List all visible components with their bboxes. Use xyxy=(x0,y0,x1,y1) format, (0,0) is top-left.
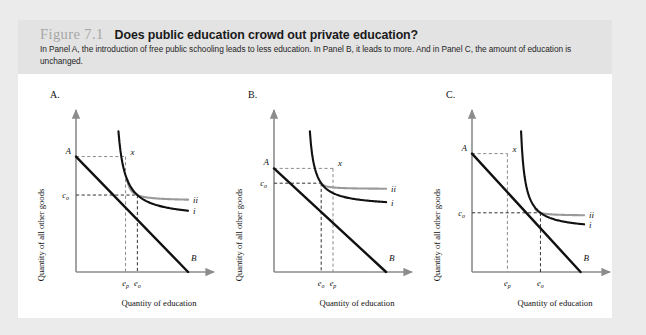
label-point-x: x xyxy=(130,147,135,157)
label-curve-i: i xyxy=(589,220,592,230)
ytick-c-o: co xyxy=(260,179,267,189)
xtick-e_p: ep xyxy=(122,279,129,289)
panels-container: A.AxBiiicoepeoQuantity of all other good… xyxy=(18,74,612,318)
y-axis-label: Quantity of all other goods xyxy=(36,188,46,281)
ytick-c-o: co xyxy=(458,209,465,219)
label-point-A: A xyxy=(461,143,468,153)
xtick-e_p: ep xyxy=(330,279,337,289)
label-curve-ii: ii xyxy=(391,184,397,194)
label-curve-i: i xyxy=(193,206,196,216)
panel-C-chart: C.AxBiiicoepeoQuantity of all other good… xyxy=(414,74,612,318)
y-axis-label: Quantity of all other goods xyxy=(432,188,442,281)
xtick-e_o: eo xyxy=(537,279,544,289)
budget-line-AB xyxy=(76,157,188,272)
panel-C-letter: C. xyxy=(446,89,455,100)
curve-i xyxy=(521,131,584,224)
curve-ii xyxy=(127,181,188,200)
x-axis-label: Quantity of education xyxy=(518,298,594,308)
xtick-e_o: eo xyxy=(318,279,325,289)
panel-C: C.AxBiiicoepeoQuantity of all other good… xyxy=(414,74,612,318)
figure-title-row: Figure 7.1 Does public education crowd o… xyxy=(40,26,418,43)
label-point-B: B xyxy=(389,253,395,263)
figure-box: Figure 7.1 Does public education crowd o… xyxy=(18,20,612,318)
label-curve-ii: ii xyxy=(193,195,199,205)
label-point-B: B xyxy=(584,253,590,263)
x-axis-label: Quantity of education xyxy=(122,298,198,308)
label-point-A: A xyxy=(65,146,72,156)
figure-number: Figure 7.1 xyxy=(40,26,104,43)
panel-A: A.AxBiiicoepeoQuantity of all other good… xyxy=(18,74,216,318)
panel-B: B.AxBiiicoeoepQuantity of all other good… xyxy=(216,74,414,318)
curve-ii xyxy=(321,182,386,188)
budget-line-AB xyxy=(274,168,386,272)
figure-title: Does public education crowd out private … xyxy=(115,28,418,42)
ytick-c-o: co xyxy=(62,191,69,201)
xtick-e_o: eo xyxy=(134,279,141,289)
panel-A-letter: A. xyxy=(50,89,60,100)
label-point-x: x xyxy=(511,144,516,154)
panel-B-letter: B. xyxy=(248,89,257,100)
label-curve-i: i xyxy=(391,198,394,208)
panel-B-chart: B.AxBiiicoeoepQuantity of all other good… xyxy=(216,74,414,318)
xtick-e_p: ep xyxy=(504,279,511,289)
x-axis-label: Quantity of education xyxy=(320,298,396,308)
label-point-B: B xyxy=(191,253,197,263)
label-point-A: A xyxy=(263,157,270,167)
y-axis-label: Quantity of all other goods xyxy=(234,188,244,281)
figure-caption: In Panel A, the introduction of free pub… xyxy=(40,44,600,67)
budget-line-AB xyxy=(472,154,581,272)
panel-A-chart: A.AxBiiicoepeoQuantity of all other good… xyxy=(18,74,216,318)
label-point-x: x xyxy=(337,158,342,168)
label-curve-ii: ii xyxy=(589,210,595,220)
